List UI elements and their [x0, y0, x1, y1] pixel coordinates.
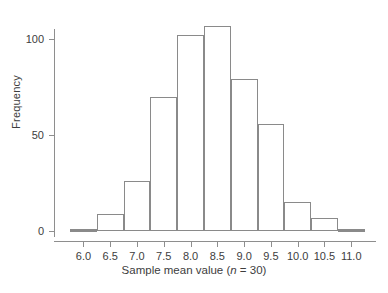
- x-axis-title-suffix: = 30): [237, 264, 267, 276]
- x-tick-mark: [244, 242, 245, 247]
- y-tick-mark: [49, 231, 54, 232]
- y-tick-label: 50: [4, 130, 44, 140]
- histogram-bar: [204, 26, 231, 231]
- histogram-bar: [124, 181, 151, 231]
- x-axis-title: Sample mean value (n = 30): [0, 264, 388, 276]
- x-tick-mark: [137, 242, 138, 247]
- y-tick-label: 100: [4, 34, 44, 44]
- x-tick-mark: [271, 242, 272, 247]
- x-tick-mark: [164, 242, 165, 247]
- histogram-bar: [258, 124, 285, 232]
- x-tick-mark: [217, 242, 218, 247]
- x-axis-title-prefix: Sample mean value (: [122, 264, 231, 276]
- histogram-figure: Frequency Sample mean value (n = 30) 050…: [0, 0, 388, 293]
- y-axis-line: [54, 29, 55, 237]
- x-tick-mark: [110, 242, 111, 247]
- histogram-bar: [70, 229, 97, 232]
- histogram-bar: [150, 97, 177, 231]
- y-tick-mark: [49, 39, 54, 40]
- histogram-bar: [97, 214, 124, 231]
- y-tick-label: 0: [4, 226, 44, 236]
- x-tick-mark: [324, 242, 325, 247]
- histogram-bar: [284, 202, 311, 231]
- histogram-bar: [231, 79, 258, 231]
- x-tick-mark: [191, 242, 192, 247]
- histogram-bar: [338, 229, 365, 232]
- y-tick-mark: [49, 135, 54, 136]
- histogram-bar: [177, 35, 204, 231]
- x-tick-mark: [351, 242, 352, 247]
- x-tick-mark: [83, 242, 84, 247]
- x-tick-mark: [298, 242, 299, 247]
- x-axis-line: [54, 241, 376, 242]
- histogram-bar: [311, 218, 338, 231]
- x-tick-label: 11.0: [331, 250, 371, 262]
